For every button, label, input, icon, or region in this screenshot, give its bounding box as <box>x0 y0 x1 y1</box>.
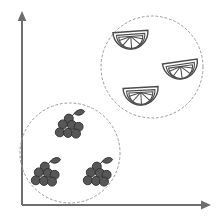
y-axis-arrowhead <box>18 11 27 21</box>
citrus-slice-icon <box>162 59 199 81</box>
citrus-slice-icon <box>113 30 149 50</box>
cluster-diagram <box>0 0 218 222</box>
grape-bunch-icon <box>31 158 60 187</box>
citrus-slice-icon <box>123 87 159 106</box>
citrus-cluster[interactable] <box>101 16 203 118</box>
x-axis-arrowhead <box>201 201 211 210</box>
diagram-canvas <box>0 0 218 222</box>
grape-bunch-icon <box>83 158 112 187</box>
grape-cluster[interactable] <box>20 103 120 203</box>
grape-bunch-icon <box>55 110 84 139</box>
